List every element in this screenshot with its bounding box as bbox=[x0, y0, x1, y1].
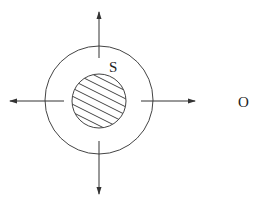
label-observer: O bbox=[238, 94, 249, 110]
label-source: S bbox=[109, 59, 117, 75]
outer-shell-circle bbox=[45, 46, 153, 154]
diagram-canvas: S O bbox=[0, 0, 260, 202]
